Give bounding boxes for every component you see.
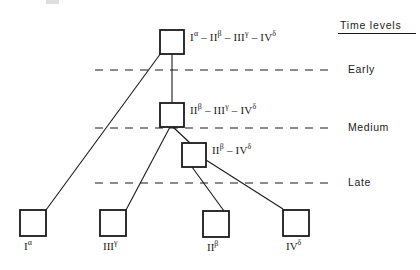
node-box-node-second [160,103,184,127]
node-boxes-group [20,30,309,237]
leaf-box-leaf-3-gamma [100,210,126,236]
node-label-third: IIβ – IVδ [212,144,252,156]
time-levels-header-underline [338,33,416,34]
time-levels-header: Time levels [340,19,402,31]
edge-third-to-leaf2 [192,167,224,211]
figure-canvas: Time levels Iα – IIβ – IIIγ – IVδ IIβ – … [0,0,420,270]
node-label-second: IIβ – IIIγ – IVδ [190,104,256,116]
leaf-label-3-gamma: IIIγ [103,240,118,252]
edges-group [46,53,283,211]
time-level-label-medium: Medium [348,121,389,133]
leaf-box-leaf-4-delta [283,210,309,236]
time-level-label-late: Late [348,176,371,188]
leaf-box-leaf-1-alpha [20,210,46,236]
leaf-label-2-beta: IIβ [207,241,218,253]
node-box-node-root [160,30,184,54]
leaf-label-4-delta: IVδ [286,240,301,252]
time-level-dashed-lines-group [95,70,330,183]
time-level-label-early: Early [348,63,375,75]
edge-second-to-leaf3 [126,127,170,210]
node-label-root: Iα – IIβ – IIIγ – IVδ [190,31,276,43]
edge-second-to-third [173,127,190,143]
leaf-box-leaf-2-beta [203,211,229,237]
node-box-node-third [182,143,206,167]
leaf-label-1-alpha: Iα [24,240,32,252]
edge-root-to-leaf1 [46,53,161,210]
